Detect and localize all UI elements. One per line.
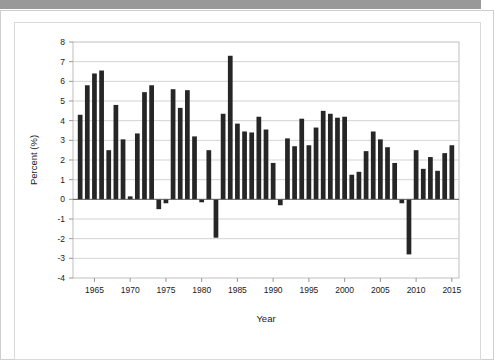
bar[interactable]: [378, 139, 383, 199]
bar[interactable]: [214, 199, 219, 237]
bar[interactable]: [442, 153, 447, 199]
bar[interactable]: [392, 163, 397, 199]
bar[interactable]: [121, 139, 126, 199]
bar[interactable]: [349, 175, 354, 200]
bar[interactable]: [357, 172, 362, 200]
bar[interactable]: [135, 133, 140, 199]
figure-frame: 876543210-1-2-3-419651970197519801985199…: [14, 22, 481, 360]
y-tick-label: 6: [60, 76, 65, 86]
y-tick-label: -2: [57, 234, 65, 244]
bar[interactable]: [285, 138, 290, 199]
bar[interactable]: [99, 71, 104, 200]
bar[interactable]: [221, 114, 226, 200]
bar[interactable]: [385, 147, 390, 199]
bar[interactable]: [307, 145, 312, 199]
bar[interactable]: [192, 136, 197, 199]
bar[interactable]: [428, 157, 433, 199]
bar[interactable]: [106, 150, 111, 199]
bar[interactable]: [149, 85, 154, 199]
x-axis-title: Year: [256, 313, 275, 324]
bar[interactable]: [185, 90, 190, 199]
bar[interactable]: [164, 199, 169, 203]
bar[interactable]: [292, 146, 297, 199]
bar[interactable]: [421, 169, 426, 199]
header-band: [0, 0, 495, 9]
bar-chart: 876543210-1-2-3-419651970197519801985199…: [15, 23, 480, 359]
y-tick-label: -3: [57, 253, 65, 263]
bar[interactable]: [171, 89, 176, 199]
bar[interactable]: [321, 111, 326, 200]
bar[interactable]: [228, 56, 233, 200]
x-tick-label: 2000: [335, 285, 354, 295]
bar[interactable]: [85, 85, 90, 199]
bar[interactable]: [371, 131, 376, 199]
x-tick-label: 1995: [299, 285, 318, 295]
bar[interactable]: [435, 171, 440, 200]
bar[interactable]: [235, 124, 240, 200]
y-tick-label: 8: [60, 37, 65, 47]
x-tick-label: 2005: [371, 285, 390, 295]
y-tick-label: -4: [57, 273, 65, 283]
y-tick-label: 5: [60, 96, 65, 106]
bar[interactable]: [206, 150, 211, 199]
page-outer-frame: 876543210-1-2-3-419651970197519801985199…: [0, 10, 494, 360]
x-tick-label: 2010: [407, 285, 426, 295]
x-tick-label: 1980: [192, 285, 211, 295]
y-tick-label: 0: [60, 194, 65, 204]
x-tick-label: 1970: [121, 285, 140, 295]
bar[interactable]: [342, 117, 347, 200]
bar[interactable]: [278, 199, 283, 205]
bar[interactable]: [142, 92, 147, 199]
bar[interactable]: [449, 145, 454, 199]
bar[interactable]: [407, 199, 412, 254]
bar[interactable]: [92, 73, 97, 199]
chart-svg: 876543210-1-2-3-419651970197519801985199…: [15, 23, 480, 359]
bar[interactable]: [335, 118, 340, 200]
x-tick-label: 1990: [264, 285, 283, 295]
x-tick-label: 1985: [228, 285, 247, 295]
y-tick-label: 3: [60, 135, 65, 145]
bar[interactable]: [299, 119, 304, 200]
bar[interactable]: [242, 131, 247, 199]
y-tick-label: 7: [60, 57, 65, 67]
bar[interactable]: [178, 108, 183, 199]
x-tick-label: 1965: [85, 285, 104, 295]
bar[interactable]: [156, 199, 161, 209]
bar[interactable]: [78, 115, 83, 200]
bar[interactable]: [414, 150, 419, 199]
bar[interactable]: [249, 132, 254, 199]
y-tick-label: 1: [60, 175, 65, 185]
bar[interactable]: [314, 128, 319, 200]
bar[interactable]: [114, 105, 119, 199]
bar[interactable]: [399, 199, 404, 203]
y-tick-label: -1: [57, 214, 65, 224]
y-tick-label: 4: [60, 116, 65, 126]
y-tick-label: 2: [60, 155, 65, 165]
bar[interactable]: [256, 117, 261, 200]
bar[interactable]: [364, 151, 369, 199]
bar[interactable]: [271, 163, 276, 199]
x-tick-label: 1975: [156, 285, 175, 295]
bar[interactable]: [264, 130, 269, 200]
header-band-end-cap: [481, 0, 495, 9]
y-axis-title: Percent (%): [28, 135, 39, 185]
bar[interactable]: [328, 114, 333, 200]
page-canvas: 876543210-1-2-3-419651970197519801985199…: [0, 0, 495, 361]
x-tick-label: 2015: [442, 285, 461, 295]
